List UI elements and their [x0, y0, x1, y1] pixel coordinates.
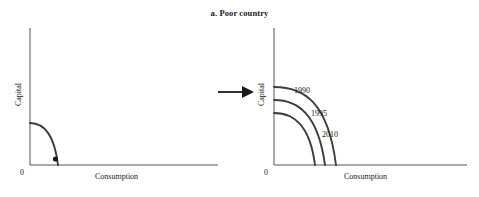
curve-label-1990: 1990 [294, 86, 310, 95]
curve-label-1995: 1995 [311, 109, 327, 118]
right-x-axis-label: Consumption [344, 172, 387, 181]
left-y-axis-label: Capital [14, 72, 23, 118]
left-origin-label: 0 [20, 168, 24, 177]
right-panel-plot [252, 20, 479, 190]
left-point-marker [53, 156, 58, 161]
left-x-axis-label: Consumption [95, 172, 138, 181]
page-title: a. Poor country [0, 8, 479, 18]
transition-arrow [216, 80, 256, 104]
left-panel: Capital Consumption 0 [0, 20, 230, 190]
arrow-icon [216, 80, 256, 104]
curve-label-2010: 2010 [322, 130, 338, 139]
right-origin-label: 0 [264, 168, 268, 177]
right-panel: Capital Consumption 0 1990 1995 2010 [252, 20, 479, 190]
right-y-axis-label: Capital [257, 72, 266, 118]
right-frontier-2010-curve [274, 113, 315, 165]
right-frontier-1990-curve [274, 87, 336, 165]
left-panel-plot [0, 20, 230, 190]
